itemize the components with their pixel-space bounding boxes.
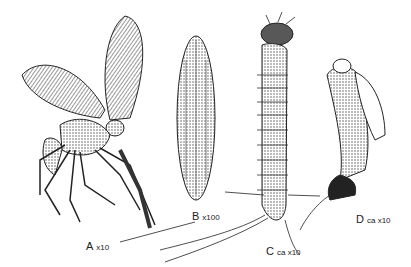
label-d-letter: D — [356, 213, 364, 225]
pupa-drawing — [300, 59, 385, 230]
egg-drawing — [177, 36, 215, 200]
label-a-letter: A — [86, 240, 93, 252]
larva-body — [262, 44, 287, 220]
pupa-head — [333, 59, 351, 73]
label-b-letter: B — [192, 210, 199, 222]
left-wing — [22, 65, 105, 118]
label-b-magnification: x100 — [202, 213, 219, 222]
larva-head — [261, 23, 293, 45]
label-a-magnification: x10 — [96, 243, 109, 252]
label-d-magnification: ca x10 — [367, 216, 391, 225]
pupa-tail — [328, 175, 355, 200]
adult-fly-drawing — [22, 16, 155, 228]
label-b: Bx100 — [192, 206, 220, 224]
label-c: Cca x10 — [266, 241, 301, 259]
label-a: Ax10 — [86, 236, 109, 254]
label-a-leader — [120, 222, 195, 242]
label-d: Dca x10 — [356, 209, 391, 227]
fly-antenna — [120, 150, 150, 228]
label-c-letter: C — [266, 245, 274, 257]
right-wing — [105, 16, 143, 120]
illustration-drawing — [0, 0, 411, 267]
illustration-canvas: Ax10 Bx100 Cca x10 Dca x10 — [0, 0, 411, 267]
label-c-magnification: ca x10 — [277, 248, 301, 257]
